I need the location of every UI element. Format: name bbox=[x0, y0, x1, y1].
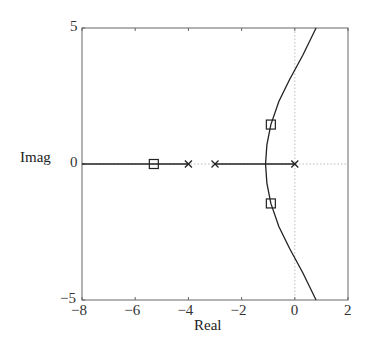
locus-branch bbox=[266, 164, 317, 300]
y-tick-label: 5 bbox=[70, 19, 78, 34]
x-tick-label: −4 bbox=[177, 303, 193, 318]
y-tick-label: 0 bbox=[70, 155, 78, 170]
root-locus-plot bbox=[0, 0, 370, 354]
square-marker bbox=[149, 160, 158, 169]
y-axis-label: Imag bbox=[20, 150, 51, 165]
locus-branch bbox=[266, 28, 317, 164]
x-tick-label: 0 bbox=[291, 303, 299, 318]
x-tick-label: −6 bbox=[124, 303, 140, 318]
x-axis-label: Real bbox=[194, 318, 222, 333]
square-marker bbox=[266, 199, 275, 208]
x-tick-label: 2 bbox=[344, 303, 352, 318]
y-tick-label: −5 bbox=[60, 291, 76, 306]
square-marker bbox=[266, 120, 275, 129]
x-tick-label: −2 bbox=[231, 303, 247, 318]
